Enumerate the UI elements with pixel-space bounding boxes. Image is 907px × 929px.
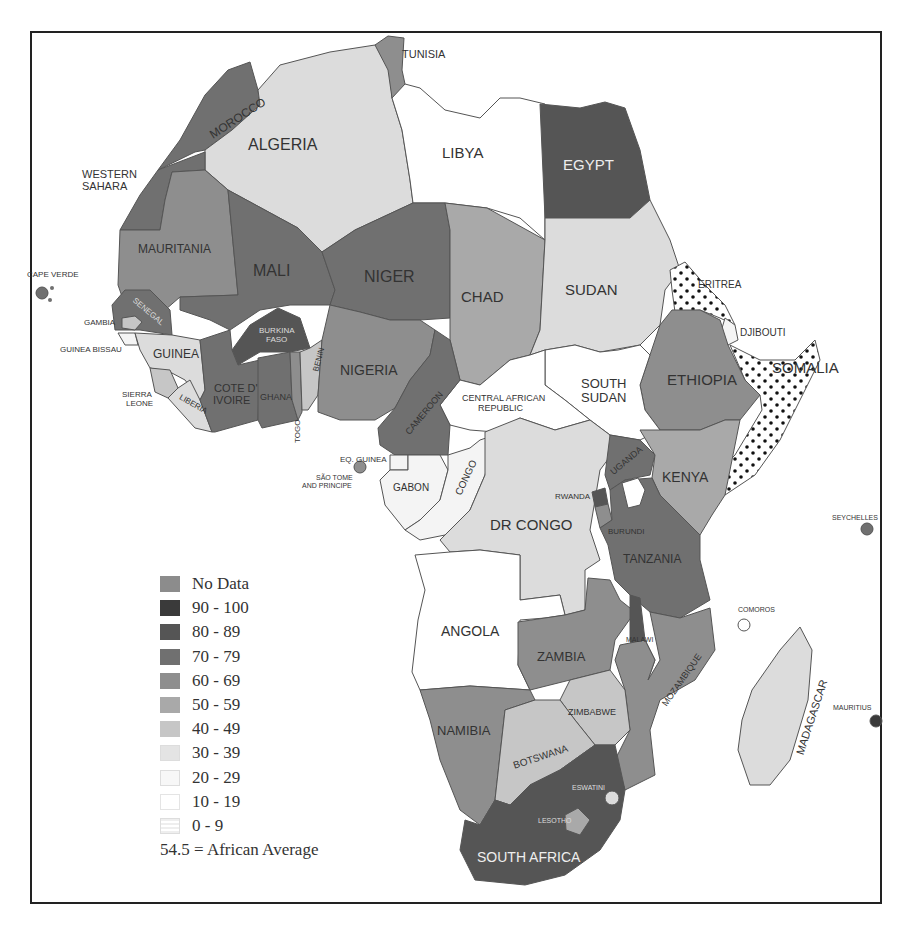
label-algeria: ALGERIA: [248, 136, 318, 153]
legend-label: 30 - 39: [192, 743, 240, 763]
label-gambia: GAMBIA: [84, 318, 116, 327]
legend-swatch: [160, 600, 180, 616]
label-comoros: COMOROS: [738, 606, 775, 613]
label-lesotho: LESOTHO: [538, 817, 572, 824]
label-cote-1: COTE D': [214, 382, 258, 394]
country-seychelles[interactable]: [861, 523, 873, 535]
label-libya: LIBYA: [442, 144, 483, 161]
legend-label: 10 - 19: [192, 792, 240, 812]
legend-item: 10 - 19: [160, 790, 318, 814]
legend-item: No Data: [160, 572, 318, 596]
label-south-sudan-1: SOUTH: [581, 376, 627, 391]
label-burkina-1: BURKINA: [259, 326, 295, 335]
label-zimbabwe: ZIMBABWE: [568, 707, 616, 717]
map-legend: No Data 90 - 100 80 - 89 70 - 79 60 - 69…: [160, 572, 318, 860]
legend-swatch: [160, 649, 180, 665]
legend-swatch: [160, 794, 180, 810]
label-car-1: CENTRAL AFRICAN: [462, 393, 545, 403]
label-angola: ANGOLA: [441, 623, 500, 639]
country-mauritania[interactable]: [118, 170, 238, 310]
label-sao-tome-1: SÃO TOME: [316, 473, 353, 481]
label-burundi: BURUNDI: [608, 527, 644, 536]
label-car-2: REPUBLIC: [478, 403, 524, 413]
label-eritrea: ERITREA: [698, 279, 742, 290]
country-eq-guinea[interactable]: [390, 455, 408, 470]
label-cape-verde: CAPE VERDE: [27, 270, 79, 279]
label-cote-2: IVOIRE: [213, 394, 250, 406]
label-guinea-bissau: GUINEA BISSAU: [60, 345, 122, 354]
label-ghana: GHANA: [260, 392, 292, 402]
country-mauritius[interactable]: [870, 715, 882, 727]
label-kenya: KENYA: [662, 469, 709, 485]
label-seychelles: SEYCHELLES: [832, 514, 878, 521]
label-tunisia: TUNISIA: [402, 48, 446, 60]
legend-label: 0 - 9: [192, 816, 223, 836]
legend-label: 80 - 89: [192, 622, 240, 642]
legend-label: 70 - 79: [192, 647, 240, 667]
legend-swatch: [160, 770, 180, 786]
country-eswatini[interactable]: [605, 791, 619, 805]
label-south-africa: SOUTH AFRICA: [477, 849, 581, 865]
label-djibouti: DJIBOUTI: [740, 327, 786, 338]
legend-item: 30 - 39: [160, 741, 318, 765]
legend-item: 90 - 100: [160, 596, 318, 620]
legend-swatch: [160, 818, 180, 834]
legend-swatch: [160, 673, 180, 689]
label-guinea: GUINEA: [153, 347, 199, 361]
country-cape-verde-islet: [48, 298, 52, 302]
label-sao-tome-2: AND PRINCIPE: [302, 482, 352, 489]
label-chad: CHAD: [461, 288, 504, 305]
label-malawi: MALAWI: [626, 636, 653, 643]
legend-item: 70 - 79: [160, 645, 318, 669]
legend-label: No Data: [192, 574, 249, 594]
africa-choropleth-map: TUNISIA MOROCCO ALGERIA LIBYA EGYPT WEST…: [0, 0, 907, 929]
legend-label: 40 - 49: [192, 719, 240, 739]
legend-item: 80 - 89: [160, 620, 318, 644]
label-sierra-leone-1: SIERRA: [122, 390, 152, 399]
label-zambia: ZAMBIA: [537, 649, 586, 664]
legend-label: 20 - 29: [192, 768, 240, 788]
label-eq-guinea: EQ. GUINEA: [340, 455, 387, 464]
country-cape-verde[interactable]: [36, 287, 48, 299]
label-eswatini: ESWATINI: [572, 784, 605, 791]
label-mauritius: MAURITIUS: [833, 704, 872, 711]
country-cape-verde-islet: [50, 286, 54, 290]
legend-swatch: [160, 721, 180, 737]
label-somalia: SOMALIA: [772, 359, 839, 376]
label-gabon: GABON: [393, 482, 429, 493]
label-togo: TOGO: [293, 420, 302, 443]
label-ethiopia: ETHIOPIA: [667, 371, 737, 388]
label-niger: NIGER: [364, 268, 415, 285]
label-namibia: NAMIBIA: [437, 723, 491, 738]
label-mauritania: MAURITANIA: [138, 242, 211, 256]
legend-swatch: [160, 624, 180, 640]
legend-item: 0 - 9: [160, 814, 318, 838]
label-tanzania: TANZANIA: [623, 552, 681, 566]
country-guinea-bissau[interactable]: [118, 333, 138, 345]
country-comoros[interactable]: [738, 619, 750, 631]
african-average-note: 54.5 = African Average: [160, 840, 318, 860]
legend-item: 60 - 69: [160, 669, 318, 693]
legend-swatch: [160, 697, 180, 713]
legend-label: 90 - 100: [192, 598, 249, 618]
label-south-sudan-2: SUDAN: [581, 390, 627, 405]
label-rwanda: RWANDA: [555, 492, 591, 501]
label-nigeria: NIGERIA: [340, 362, 398, 378]
label-western-sahara-1: WESTERN: [82, 168, 137, 180]
country-madagascar[interactable]: [738, 627, 812, 785]
label-mali: MALI: [253, 262, 290, 279]
label-dr-congo: DR CONGO: [490, 516, 573, 533]
legend-label: 50 - 59: [192, 695, 240, 715]
label-egypt: EGYPT: [563, 156, 614, 173]
label-burkina-2: FASO: [266, 335, 287, 344]
label-sudan: SUDAN: [565, 281, 618, 298]
legend-item: 40 - 49: [160, 717, 318, 741]
legend-item: 20 - 29: [160, 766, 318, 790]
legend-item: 50 - 59: [160, 693, 318, 717]
legend-swatch: [160, 745, 180, 761]
legend-swatch: [160, 576, 180, 592]
legend-label: 60 - 69: [192, 671, 240, 691]
label-sierra-leone-2: LEONE: [126, 399, 153, 408]
label-western-sahara-2: SAHARA: [82, 180, 128, 192]
